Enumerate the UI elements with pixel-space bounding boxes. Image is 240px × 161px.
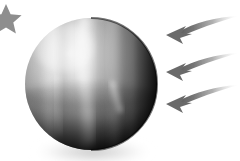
planet-scene-svg [0,0,240,161]
illustration-canvas: Grayscale illustration of a banded gas-g… [0,0,240,161]
